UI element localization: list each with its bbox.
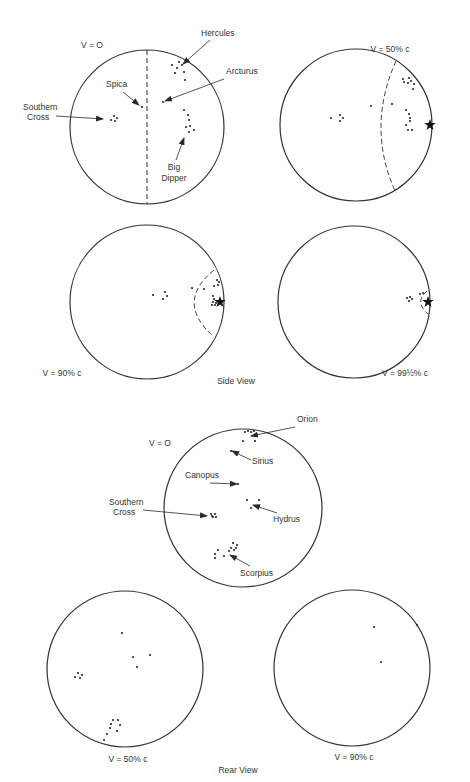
pointer-arrow-icon [210, 483, 237, 484]
velocity-label: V = 50% c [371, 44, 411, 54]
star-dot [212, 301, 214, 303]
constellation-label-scorpius: Scorpius [240, 568, 273, 578]
constellation-label-big: Big [168, 162, 181, 172]
sky-circle [280, 49, 432, 201]
star-dot [405, 124, 407, 126]
side-view-section: V = OHerculesArcturusSpicaSouthernCrossB… [23, 28, 436, 379]
star-dot [217, 549, 219, 551]
star-dot [81, 674, 83, 676]
star-dot [254, 440, 256, 442]
star-dot [242, 440, 244, 442]
constellation-label-canopus: Canopus [185, 470, 219, 480]
star-dot [422, 292, 424, 294]
star-dot [189, 125, 191, 127]
star-dot [407, 82, 409, 84]
star-dot [402, 78, 404, 80]
star-dot [218, 281, 220, 283]
star-dot [109, 727, 111, 729]
star-dot [228, 550, 230, 552]
sky-circle [47, 591, 203, 747]
star-dot [117, 719, 119, 721]
star-dot [213, 285, 215, 287]
star-dot [193, 129, 195, 131]
star-dot [370, 105, 372, 107]
sky-circle [274, 590, 430, 746]
star-dot [116, 730, 118, 732]
star-dot [411, 129, 413, 131]
star-dot [132, 656, 134, 658]
velocity-label: V = 90% c [335, 752, 375, 762]
star-dot [119, 724, 121, 726]
star-dot [246, 499, 248, 501]
star-dot [188, 131, 190, 133]
star-dot [106, 733, 108, 735]
star-dot [178, 61, 180, 63]
constellation-label-hydrus: Hydrus [273, 514, 300, 524]
star-dot [212, 295, 214, 297]
star-dot [409, 117, 411, 119]
star-dot [409, 296, 411, 298]
star-dot [174, 72, 176, 74]
star-dot [237, 483, 239, 485]
star-dot [235, 547, 237, 549]
star-dot [408, 113, 410, 115]
star-dot [181, 64, 183, 66]
star-dot [391, 103, 393, 105]
star-dot [214, 557, 216, 559]
star-dot [171, 64, 173, 66]
panel-side-v995: V = 99½% c [278, 226, 434, 378]
star-dot [342, 117, 344, 119]
star-dot [258, 499, 260, 501]
star-dot [408, 300, 410, 302]
panel-side-v0: V = OHerculesArcturusSpicaSouthernCrossB… [23, 28, 258, 204]
horizon-boundary-dashed [194, 270, 214, 336]
star-dot [410, 80, 412, 82]
star-dot [74, 676, 76, 678]
sky-circle [278, 226, 430, 378]
velocity-label: V = O [149, 438, 171, 448]
rear-view-section: V = OOrionSiriusCanopusHydrusSouthernCro… [47, 414, 430, 764]
star-dot [113, 115, 115, 117]
star-dot [250, 507, 252, 509]
star-dot [216, 279, 218, 281]
constellation-label-hercules: Hercules [201, 28, 235, 38]
star-dot [419, 293, 421, 295]
panel-rear-v0: V = OOrionSiriusCanopusHydrusSouthernCro… [109, 414, 322, 587]
pointer-arrow-icon [56, 116, 103, 119]
panel-side-v90: V = 90% c [43, 225, 226, 379]
star-dot [247, 430, 249, 432]
constellation-label-cross: Cross [27, 112, 49, 122]
star-dot [112, 719, 114, 721]
star-dot [162, 298, 164, 300]
star-dot [185, 126, 187, 128]
panel-side-v50: V = 50% c [280, 44, 436, 201]
sky-circle [164, 429, 322, 587]
velocity-label: V = O [81, 40, 103, 50]
constellation-label-southern: Southern [109, 497, 144, 507]
star-dot [191, 287, 193, 289]
star-dot [217, 284, 219, 286]
star-dot [211, 515, 213, 517]
star-dot [152, 294, 154, 296]
star-dot [232, 542, 234, 544]
forward-star-icon [424, 119, 435, 130]
velocity-label: V = 50% c [109, 754, 149, 764]
panel-rear-v90: V = 90% c [274, 590, 430, 762]
star-dot [176, 67, 178, 69]
constellation-label-spica: Spica [106, 79, 128, 89]
star-dot [79, 677, 81, 679]
star-dot [136, 666, 138, 668]
star-dot [215, 302, 217, 304]
star-dot [166, 295, 168, 297]
star-dot [330, 117, 332, 119]
pointer-arrow-icon [176, 138, 184, 160]
constellation-label-arcturus: Arcturus [226, 66, 258, 76]
star-dot [408, 77, 410, 79]
constellation-label-southern: Southern [23, 102, 58, 112]
star-dot [110, 119, 112, 121]
star-dot [210, 513, 212, 515]
star-dot [214, 513, 216, 515]
star-dot [203, 288, 205, 290]
star-dot [403, 81, 405, 83]
star-dot [114, 120, 116, 122]
